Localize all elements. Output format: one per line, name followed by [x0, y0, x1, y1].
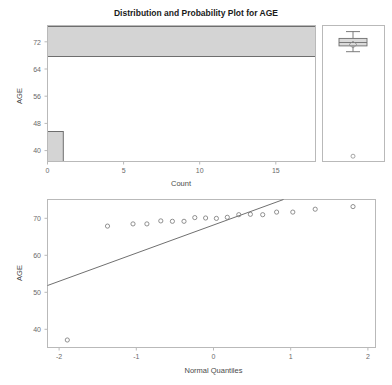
- figure-container: Distribution and Probability Plot for AG…: [0, 0, 392, 385]
- histogram-xtick-10: 10: [196, 167, 204, 174]
- histogram-ytick-64: 64: [33, 66, 41, 73]
- qq-xtick-0: 0: [212, 353, 216, 360]
- histogram-ytick-48: 48: [33, 120, 41, 127]
- qq-ytick-50: 50: [33, 289, 41, 296]
- histogram-xtick-5: 5: [122, 167, 126, 174]
- qq-y-axis-title: AGE: [15, 265, 24, 281]
- histogram-y-axis-title: AGE: [15, 88, 24, 104]
- histogram-ytick-72: 72: [33, 39, 41, 46]
- qq-ytick-70: 70: [33, 215, 41, 222]
- histogram-bar-upper: [48, 27, 316, 57]
- qq-xtick-neg2: -2: [56, 353, 62, 360]
- qq-xtick-1: 1: [289, 353, 293, 360]
- page-title: Distribution and Probability Plot for AG…: [114, 8, 278, 18]
- qq-ytick-40: 40: [33, 326, 41, 333]
- qq-xtick-neg1: -1: [133, 353, 139, 360]
- qq-ytick-60: 60: [33, 252, 41, 259]
- qq-x-axis-title: Normal Quantiles: [185, 366, 243, 375]
- histogram-ytick-40: 40: [33, 147, 41, 154]
- figure-background: [0, 0, 392, 385]
- histogram-x-axis-title: Count: [171, 179, 192, 188]
- histogram-ytick-56: 56: [33, 93, 41, 100]
- distribution-probability-figure: Distribution and Probability Plot for AG…: [0, 0, 392, 385]
- histogram-bar-lower: [48, 132, 64, 162]
- qq-xtick-2: 2: [366, 353, 370, 360]
- histogram-xtick-0: 0: [46, 167, 50, 174]
- histogram-xtick-15: 15: [272, 167, 280, 174]
